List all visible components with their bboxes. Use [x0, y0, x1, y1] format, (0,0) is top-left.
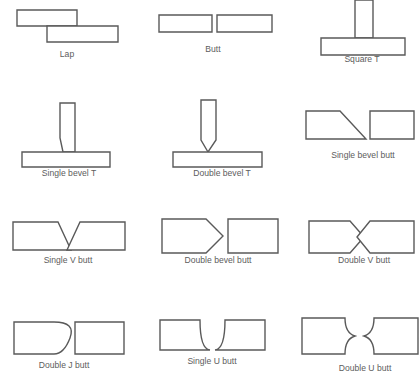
- joint-piece-u-profile-right-plate: [215, 320, 265, 350]
- joint-label-lap: Lap: [60, 49, 75, 59]
- joint-piece-beveled-vertical-member: [60, 103, 75, 152]
- joint-label-double-bevel-butt: Double bevel butt: [185, 255, 252, 265]
- joint-label-single-bevel-butt: Single bevel butt: [331, 150, 395, 160]
- joint-single-u-butt: Single U butt: [160, 320, 265, 366]
- joint-piece-square-right-plate: [370, 111, 414, 139]
- joint-label-double-v-butt: Double V butt: [338, 255, 391, 265]
- joint-single-v-butt: Single V butt: [13, 222, 125, 265]
- joint-piece-beveled-left-plate: [306, 111, 366, 139]
- joint-lap: Lap: [17, 10, 118, 59]
- joint-label-butt: Butt: [205, 44, 221, 54]
- joint-piece-pointed-left-plate: [162, 219, 223, 253]
- joint-single-bevel-t: Single bevel T: [22, 103, 110, 178]
- joint-double-bevel-t: Double bevel T: [173, 100, 262, 178]
- joint-piece-pointed-right-plate: [357, 221, 414, 253]
- joint-double-j-butt: Double J butt: [14, 322, 124, 370]
- joint-square-t: Square T: [321, 0, 405, 64]
- joint-single-bevel-butt: Single bevel butt: [306, 111, 414, 160]
- joint-piece-left-v-plate: [13, 222, 71, 250]
- joint-piece-pointed-left-plate: [309, 221, 364, 253]
- joint-label-double-u-butt: Double U butt: [339, 363, 392, 373]
- joint-piece-u-profile-left-plate: [160, 320, 210, 350]
- joint-diagram-canvas: LapButtSquare TSingle bevel TDouble beve…: [0, 0, 420, 375]
- joint-piece-upper-plate: [17, 10, 77, 26]
- welding-joint-diagram: LapButtSquare TSingle bevel TDouble beve…: [0, 0, 420, 375]
- joint-piece-j-profile-left-plate: [14, 322, 71, 354]
- joint-double-u-butt: Double U butt: [302, 318, 418, 373]
- joint-label-double-j-butt: Double J butt: [39, 360, 90, 370]
- joint-piece-right-plate: [217, 15, 272, 32]
- joint-label-single-u-butt: Single U butt: [187, 356, 237, 366]
- joint-piece-right-v-plate: [67, 222, 125, 250]
- joint-piece-vertical-member: [355, 0, 373, 38]
- joint-label-square-t: Square T: [344, 54, 380, 64]
- joint-piece-double-u-left-plate: [302, 318, 355, 354]
- joint-double-bevel-butt: Double bevel butt: [162, 219, 278, 265]
- joint-piece-square-right-plate: [228, 219, 278, 253]
- joint-butt: Butt: [159, 15, 272, 54]
- joint-double-v-butt: Double V butt: [309, 221, 414, 265]
- joint-piece-double-beveled-vertical-member: [201, 100, 216, 152]
- joint-label-single-bevel-t: Single bevel T: [42, 168, 97, 178]
- joint-piece-base-plate: [321, 38, 405, 55]
- joint-piece-base-plate: [173, 152, 262, 167]
- joint-piece-base-plate: [22, 152, 110, 167]
- joint-label-single-v-butt: Single V butt: [44, 255, 93, 265]
- joint-piece-square-right-plate: [75, 322, 124, 354]
- joint-piece-left-plate: [159, 15, 212, 32]
- joint-piece-double-u-right-plate: [364, 318, 418, 354]
- joint-piece-lower-plate: [47, 26, 118, 42]
- joint-label-double-bevel-t: Double bevel T: [193, 168, 251, 178]
